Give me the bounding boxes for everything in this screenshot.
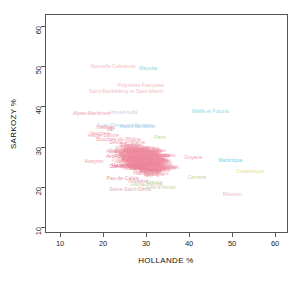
x-tick-20 [103, 233, 104, 237]
x-tick-label-20: 20 [99, 239, 107, 248]
y-tick-label-10: 10 [34, 227, 43, 235]
x-tick-60 [275, 233, 276, 237]
y-tick-label-50: 50 [34, 66, 43, 74]
data-point-label: Nouvelle Calédonie [90, 64, 135, 69]
x-tick-10 [60, 233, 61, 237]
data-point-label: Aveyron [85, 159, 104, 164]
data-point-label: Calvados [109, 164, 131, 169]
data-point-label: Martinique [218, 158, 242, 163]
data-point-label: Guyane [184, 155, 202, 160]
data-point-label: Wallis et Futuna [192, 109, 229, 114]
x-tick-label-10: 10 [56, 239, 64, 248]
scatter-plot: AinAisneAllierAubeAudeCantalCherDoubsDro… [0, 0, 302, 284]
x-axis-title: HOLLANDE % [138, 256, 193, 265]
data-point-label: Nord [147, 162, 158, 167]
x-tick-label-40: 40 [185, 239, 193, 248]
data-point-label: Ahmed-sulfa [108, 110, 137, 115]
y-tick-label-60: 60 [34, 26, 43, 34]
data-point-label: Saint-Barthélemy et Saint-Martin [89, 89, 164, 94]
data-point-label: Alpes-Maritimes [73, 112, 110, 117]
y-tick-label-20: 20 [34, 187, 43, 195]
x-tick-30 [146, 233, 147, 237]
data-point-label: Ardèche [106, 154, 125, 159]
data-point-label: Mayotte [139, 66, 157, 71]
y-tick-label-30: 30 [34, 147, 43, 155]
data-points-layer: AinAisneAllierAubeAudeCantalCherDoubsDro… [45, 14, 288, 233]
data-point-label: Paris [154, 135, 166, 140]
data-point-label: Polynésie Française [118, 83, 165, 88]
data-point-label: Morbihan [140, 168, 162, 173]
y-tick-label-40: 40 [34, 106, 43, 114]
x-tick-label-30: 30 [142, 239, 150, 248]
data-point-label: Corrèze [188, 175, 206, 180]
y-axis-title: SARKOZY % [9, 99, 18, 149]
x-tick-50 [232, 233, 233, 237]
x-tick-label-50: 50 [228, 239, 236, 248]
data-point-label: Hauts-de-Seine [119, 124, 155, 129]
x-tick-40 [189, 233, 190, 237]
data-point-label: Réunion [223, 193, 242, 198]
data-point-label: Côtes-d'Armor [142, 186, 175, 191]
x-tick-label-60: 60 [271, 239, 279, 248]
data-point-label: Guadeloupe [236, 170, 264, 175]
